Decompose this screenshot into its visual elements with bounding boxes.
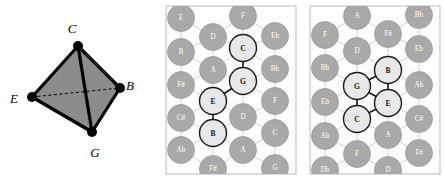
lattice-node-label-E: E [385, 99, 390, 108]
tetra-vertex-E [27, 92, 37, 102]
tonnetz-panel-compact: ABbFF#DEbBbAbEbC#AbAFF#DbDBGEC [310, 2, 440, 183]
lattice-node-label-Eb: Eb [271, 32, 279, 40]
lattice-node-label-G: G [354, 82, 360, 91]
lattice-node-label-E: E [210, 97, 215, 106]
tetra-vertex-C [73, 41, 83, 51]
lattice-node-label-F#: F# [177, 81, 185, 89]
lattice-node-label-B: B [385, 66, 390, 75]
lattice-node-label-F: F [273, 97, 277, 105]
lattice-node-label-D: D [354, 47, 359, 55]
lattice-node-label-F#: F# [384, 30, 392, 38]
lattice-node-label-B: B [179, 48, 184, 56]
lattice-node-label-Bb: Bb [271, 65, 280, 73]
lattice-node-label-A: A [354, 12, 360, 20]
lattice-node-label-F#: F# [415, 149, 423, 157]
tetra-vertex-B [115, 83, 125, 93]
lattice-node-label-B: B [210, 129, 215, 138]
lattice-node-label-Ab: Ab [415, 81, 424, 89]
lattice-node-label-C#: C# [177, 114, 186, 122]
tetra-vertex-label-G: G [90, 145, 100, 160]
tetra-vertex-G [87, 127, 97, 137]
tetra-vertex-label-C: C [68, 21, 77, 36]
lattice-node-label-D: D [210, 33, 215, 41]
figure-root: CBEG EFDEbBABbF#FC#DCAbAF#GCGEB ABbFF#DE… [0, 0, 444, 182]
lattice-node-label-F: F [323, 31, 327, 39]
lattice-node-label-F#: F# [209, 165, 217, 173]
lattice-node-label-A: A [240, 146, 246, 154]
tetrahedron-panel: CBEG [9, 21, 134, 160]
lattice-node-label-Ab: Ab [177, 146, 186, 154]
lattice-node-label-Bb: Bb [415, 11, 424, 19]
lattice-node-label-D: D [240, 113, 245, 121]
tonnetz-panel-open: EFDEbBABbF#FC#DCAbAF#GCGEB [166, 3, 296, 183]
lattice-node-label-C#: C# [415, 115, 424, 123]
lattice-node-label-A: A [210, 66, 216, 74]
lattice-node-label-Eb: Eb [321, 98, 329, 106]
lattice-node-label-C: C [240, 44, 245, 53]
lattice-node-label-F: F [355, 150, 359, 158]
lattice-node-label-C: C [354, 115, 359, 124]
lattice-node-label-G: G [240, 77, 246, 86]
lattice-node-label-D: D [385, 166, 390, 174]
tetra-vertex-label-B: B [126, 78, 134, 93]
lattice-node-label-Eb: Eb [415, 45, 423, 53]
lattice-node-label-Bb: Bb [321, 64, 330, 72]
lattice-node-label-Db: Db [321, 166, 330, 174]
lattice-node-label-G: G [272, 164, 277, 172]
lattice-node-label-Ab: Ab [321, 132, 330, 140]
lattice-node-label-F: F [241, 12, 245, 20]
lattice-node-label-E: E [179, 14, 184, 22]
lattice-node-label-C: C [273, 129, 278, 137]
figure-svg: CBEG EFDEbBABbF#FC#DCAbAF#GCGEB ABbFF#DE… [0, 0, 444, 182]
tetra-vertex-label-E: E [9, 91, 18, 106]
lattice-node-label-A: A [385, 131, 391, 139]
